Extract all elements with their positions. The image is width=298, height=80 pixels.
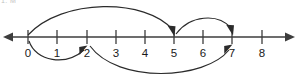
- axis-group: [3, 33, 295, 42]
- tick-label-4: 4: [142, 47, 149, 59]
- axis-right-arrowhead: [285, 33, 295, 42]
- tick-label-5: 5: [171, 47, 177, 59]
- jump-arc-path-0-to-5: [28, 7, 173, 35]
- tick-label-group: 0 1 2 3 4 5 6 7 8: [25, 47, 265, 59]
- jump-arrowhead-at-5-above: [168, 26, 176, 37]
- number-line-figure: 1. M 0 1 2 3 4 5 6 7: [0, 0, 298, 80]
- tick-label-6: 6: [200, 47, 206, 59]
- tick-label-1: 1: [54, 47, 60, 59]
- axis-left-arrowhead: [3, 33, 13, 42]
- jump-arc-0-to-5-above: [28, 7, 176, 37]
- jump-arc-5-to-7-above: [176, 18, 234, 35]
- jump-arc-path-2-to-7: [90, 46, 229, 74]
- jump-arc-2-to-7-below: [90, 45, 233, 74]
- tick-label-8: 8: [259, 47, 265, 59]
- tick-label-2: 2: [84, 47, 90, 59]
- jump-arrowhead-at-7-above: [226, 25, 234, 36]
- tick-label-0: 0: [25, 47, 31, 59]
- tick-label-3: 3: [113, 47, 119, 59]
- number-line-canvas: 0 1 2 3 4 5 6 7 8: [0, 0, 298, 80]
- tick-label-7: 7: [229, 47, 235, 59]
